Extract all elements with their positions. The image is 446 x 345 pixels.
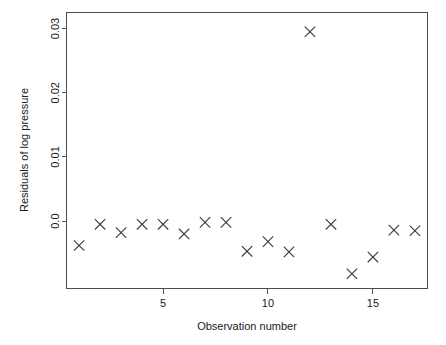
y-axis-title: Residuals of log pressure [18,88,30,212]
data-point [326,219,336,229]
data-point [242,246,252,256]
plot-frame [67,13,428,289]
y-axis-ticks [62,29,67,222]
data-point [284,247,294,257]
data-point [200,217,210,227]
x-axis-title: Observation number [197,320,297,332]
y-tick-label: 0.01 [49,146,61,167]
y-tick-label: 0.02 [49,82,61,103]
x-tick-label: 5 [160,297,166,309]
data-point [305,27,315,37]
x-axis-tick-labels: 51015 [160,297,379,309]
data-point [263,236,273,246]
x-tick-label: 10 [262,297,274,309]
data-point [179,229,189,239]
y-tick-label: 0.0 [49,213,61,228]
data-point [74,240,84,250]
data-point [347,269,357,279]
data-point [95,219,105,229]
data-point [116,227,126,237]
y-tick-label: 0.03 [49,18,61,39]
data-point [158,219,168,229]
data-point [137,219,147,229]
chart-canvas: 0.00.010.020.03 51015 Observation number… [0,0,446,345]
scatter-plot-figure: 0.00.010.020.03 51015 Observation number… [0,0,446,345]
data-point [410,226,420,236]
data-point-series [74,27,420,279]
x-axis-ticks [163,289,373,294]
x-tick-label: 15 [367,297,379,309]
plot-box-border [67,13,428,289]
data-point [221,217,231,227]
y-axis-tick-labels: 0.00.010.020.03 [49,18,61,229]
data-point [389,225,399,235]
data-point [368,252,378,262]
